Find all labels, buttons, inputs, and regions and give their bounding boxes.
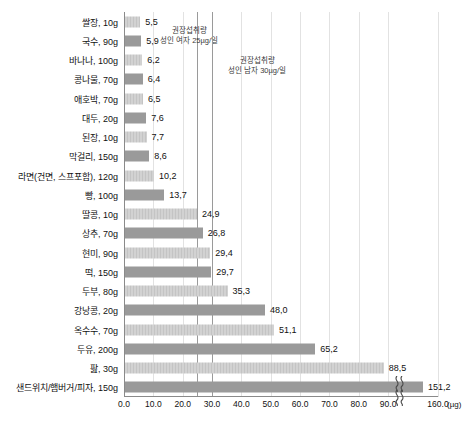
bar [125, 132, 147, 143]
bar [125, 382, 423, 393]
bar-row: 라면(건면, 스프포함), 120g10,2 [0, 166, 467, 185]
category-label: 강낭콩, 20g [74, 304, 118, 317]
category-label: 국수, 90g [82, 34, 118, 47]
category-label: 된장, 10g [82, 131, 118, 144]
bar-value-label: 29,4 [215, 248, 233, 258]
bar-value-label: 6,2 [147, 55, 160, 65]
bar-row: 강낭콩, 20g48,0 [0, 301, 467, 320]
x-axis-unit-label: (µg) [447, 400, 461, 409]
x-tick-label: 50.0 [262, 399, 279, 409]
category-label: 막걸리, 150g [69, 150, 118, 163]
bar-value-label: 48,0 [270, 305, 288, 315]
category-label: 빵, 100g [85, 188, 118, 201]
bar-value-label: 26,8 [208, 228, 226, 238]
category-label: 쌀장, 10g [82, 15, 118, 28]
bar-row: 상추, 70g26,8 [0, 224, 467, 243]
bar-row: 애호박, 70g6,5 [0, 89, 467, 108]
bar-row: 샌드위치/햄버거/피자, 150g151,2 [0, 378, 467, 397]
bar-value-label: 5,9 [146, 36, 159, 46]
x-tick-label: 30.0 [204, 399, 221, 409]
bar-value-label: 7,7 [152, 132, 165, 142]
category-label: 상추, 70g [82, 227, 118, 240]
category-label: 콩나물, 70g [74, 73, 118, 86]
x-tick-label: 20.0 [174, 399, 191, 409]
bar-row: 현미, 90g29,4 [0, 243, 467, 262]
bar [125, 343, 315, 354]
bar [125, 93, 143, 104]
bar-row: 빵, 100g13,7 [0, 185, 467, 204]
bar [125, 286, 228, 297]
bar [125, 151, 149, 162]
bar [125, 247, 210, 258]
bar-value-label: 10,2 [159, 171, 177, 181]
category-label: 옥수수, 70g [74, 323, 118, 336]
x-tick-label: 40.0 [233, 399, 250, 409]
x-tick-label: 80.0 [351, 399, 368, 409]
bar-row: 옥수수, 70g51,1 [0, 320, 467, 339]
bar [125, 209, 197, 220]
bar [125, 55, 142, 66]
category-label: 애호박, 70g [74, 92, 118, 105]
bar [125, 16, 140, 27]
bar-row: 두유, 200g65,2 [0, 339, 467, 358]
bar [125, 228, 203, 239]
bar [125, 170, 154, 181]
category-label: 바나나, 100g [69, 54, 118, 67]
bar-row: 바나나, 100g6,2 [0, 51, 467, 70]
bar-row: 딸콩, 10g24,9 [0, 205, 467, 224]
bar-chart: 권장섭취량성인 여자 25µg/일권장섭취량성인 남자 30µg/일 쌀장, 1… [0, 0, 467, 433]
bar [125, 305, 265, 316]
bar-value-label: 65,2 [320, 344, 338, 354]
bar-row: 콩나물, 70g6,4 [0, 70, 467, 89]
x-tick-label: 60.0 [292, 399, 309, 409]
bar-value-label: 88,5 [389, 363, 407, 373]
category-label: 두유, 200g [77, 342, 118, 355]
bar-value-label: 6,5 [148, 94, 161, 104]
category-label: 팚, 30g [90, 362, 118, 375]
bar [125, 35, 141, 46]
category-label: 샌드위치/햄버거/피자, 150g [16, 381, 118, 394]
category-label: 두부, 80g [82, 285, 118, 298]
bar-row: 된장, 10g7,7 [0, 128, 467, 147]
bar-value-label: 24,9 [202, 209, 220, 219]
x-tick-label: 160.0 [427, 399, 448, 409]
bar-value-label: 35,3 [233, 286, 251, 296]
bar [125, 363, 384, 374]
category-label: 떡, 150g [85, 265, 118, 278]
category-label: 딸콩, 10g [82, 208, 118, 221]
bar [125, 112, 146, 123]
category-label: 라면(건면, 스프포함), 120g [18, 169, 118, 182]
x-tick-label: 10.0 [145, 399, 162, 409]
bar-row: 두부, 80g35,3 [0, 282, 467, 301]
bar [125, 74, 143, 85]
bar [125, 266, 211, 277]
x-tick-label: 70.0 [321, 399, 338, 409]
bar-value-label: 7,6 [151, 113, 164, 123]
category-label: 현미, 90g [82, 246, 118, 259]
x-tick-label: 90.0 [380, 399, 397, 409]
bar-row: 쌀장, 10g5,5 [0, 12, 467, 31]
bar [125, 324, 274, 335]
x-tick-label: 0.0 [118, 399, 130, 409]
bar-value-label: 13,7 [169, 190, 187, 200]
bar-value-label: 29,7 [216, 267, 234, 277]
bar-row: 떡, 150g29,7 [0, 262, 467, 281]
bar-row: 막걸리, 150g8,6 [0, 147, 467, 166]
bar-row: 팚, 30g88,5 [0, 359, 467, 378]
bar-value-label: 151,2 [428, 382, 451, 392]
bar-value-label: 5,5 [145, 17, 158, 27]
category-label: 대두, 20g [82, 111, 118, 124]
bar [125, 189, 164, 200]
bar-value-label: 6,4 [148, 74, 161, 84]
bar-row: 대두, 20g7,6 [0, 108, 467, 127]
bar-value-label: 51,1 [279, 325, 297, 335]
bar-row: 국수, 90g5,9 [0, 31, 467, 50]
bar-value-label: 8,6 [154, 151, 167, 161]
